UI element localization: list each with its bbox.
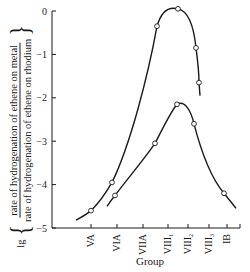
x-tick-label-viii3: VIII3	[203, 234, 215, 254]
svg-text:VIII3: VIII3	[203, 234, 215, 254]
x-tick-label-viii1: VIII1	[162, 234, 174, 254]
upper-curve-point	[110, 180, 115, 185]
svg-text:VIII2: VIII2	[182, 234, 194, 254]
x-tick-label-via: VIA	[111, 233, 122, 252]
y-tick-label: −2	[36, 92, 47, 103]
upper-curve-point	[176, 6, 181, 11]
upper-curve-point	[155, 24, 160, 29]
curves	[76, 8, 236, 220]
svg-text:VIIA: VIIA	[137, 233, 148, 255]
y-tick-label: −1	[36, 49, 47, 60]
chart-plot: 0−1−2−3−4−5VAVIAVIIAVIII1VIII2VIII3IBGro…	[0, 0, 250, 272]
svg-text:VIA: VIA	[111, 233, 122, 252]
x-tick-label-ib: IB	[221, 234, 232, 244]
axes	[52, 11, 240, 228]
upper-curve-point	[194, 45, 199, 50]
y-tick-label: 0	[42, 6, 47, 17]
upper-curve-point	[197, 80, 202, 85]
lower-curve-point	[222, 191, 227, 196]
y-tick-label: −3	[36, 136, 47, 147]
y-tick-label: −5	[36, 223, 47, 234]
lower-curve-point	[175, 102, 180, 107]
lower-curve-point	[153, 141, 158, 146]
svg-text:IB: IB	[221, 234, 232, 244]
x-tick-label-viia: VIIA	[137, 233, 148, 255]
svg-text:VA: VA	[85, 233, 96, 247]
data-points	[89, 6, 227, 213]
lower-curve-point	[113, 193, 118, 198]
x-tick-label-viii2: VIII2	[182, 234, 194, 254]
upper-curve-point	[89, 208, 94, 213]
y-tick-label: −4	[36, 179, 47, 190]
lower-curve	[107, 103, 236, 208]
svg-text:VIII1: VIII1	[162, 234, 174, 254]
x-tick-label-va: VA	[85, 233, 96, 247]
lower-curve-point	[192, 121, 197, 126]
x-axis-label: Group	[136, 255, 165, 267]
upper-curve	[76, 8, 200, 220]
